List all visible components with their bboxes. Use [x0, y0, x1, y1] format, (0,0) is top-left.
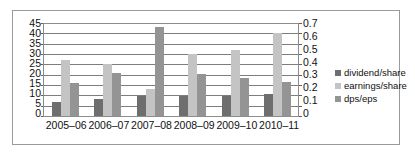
chart-frame: 454035302520151050 0.70.60.50.40.30.20.1… [12, 10, 400, 145]
legend-label: dividend/share [344, 67, 406, 78]
left-axis-tick-labels: 454035302520151050 [17, 19, 41, 117]
x-axis-tick: 2006–07 [88, 119, 125, 131]
axis-tick-mark [299, 33, 302, 34]
bar-earnings-share [188, 54, 197, 116]
bar-earnings-share [146, 89, 155, 116]
right-axis-tick: 0.6 [303, 32, 318, 40]
legend-item[interactable]: dps/eps [335, 93, 407, 104]
bar-dividend-share [222, 96, 231, 116]
left-axis-tick: 45 [29, 19, 41, 27]
left-axis-tick: 35 [29, 39, 41, 47]
x-axis-tick-labels: 2005–062006–072007–082008–092009–102010–… [43, 119, 299, 131]
legend-swatch-icon [335, 83, 341, 89]
plot-canvas [43, 23, 299, 117]
axis-tick-mark [299, 116, 302, 117]
bar-earnings-share [273, 33, 282, 116]
bar-dividend-share [137, 96, 146, 116]
legend-item[interactable]: dividend/share [335, 67, 407, 78]
legend-label: earnings/share [344, 80, 407, 91]
bar-dps-eps [240, 78, 249, 116]
axis-tick-mark [299, 75, 302, 76]
bar-dividend-share [179, 96, 188, 116]
chart-plot-area: 454035302520151050 0.70.60.50.40.30.20.1… [13, 11, 399, 144]
right-axis-tick: 0.5 [303, 45, 318, 53]
left-axis-tick: 25 [29, 59, 41, 67]
bar-group [174, 23, 211, 116]
bar-group [47, 23, 84, 116]
right-axis-tick: 0.1 [303, 96, 318, 104]
chart-legend: dividend/shareearnings/sharedps/eps [335, 67, 407, 106]
x-axis-tick: 2008–09 [174, 119, 211, 131]
bar-dps-eps [112, 73, 121, 116]
bar-groups [44, 23, 299, 116]
bar-earnings-share [61, 60, 70, 116]
right-axis-tick: 0 [303, 109, 309, 117]
bar-group [217, 23, 254, 116]
axis-tick-mark [299, 95, 302, 96]
bar-group [89, 23, 126, 116]
left-axis-tick: 15 [29, 79, 41, 87]
legend-item[interactable]: earnings/share [335, 80, 407, 91]
axis-tick-mark [299, 106, 302, 107]
bar-group [132, 23, 169, 116]
axis-tick-mark [299, 85, 302, 86]
bar-dps-eps [282, 82, 291, 116]
bar-earnings-share [103, 64, 112, 116]
right-axis-tick: 0.2 [303, 83, 318, 91]
bar-group [259, 23, 296, 116]
right-axis-tick-labels: 0.70.60.50.40.30.20.10 [303, 19, 329, 117]
right-axis-tick: 0.3 [303, 70, 318, 78]
bar-dividend-share [52, 102, 61, 116]
legend-swatch-icon [335, 96, 341, 102]
x-axis-tick: 2005–06 [46, 119, 83, 131]
x-axis-tick: 2007–08 [131, 119, 168, 131]
bar-dividend-share [264, 94, 273, 116]
bar-dps-eps [197, 74, 206, 116]
left-axis-tick: 10 [29, 89, 41, 97]
legend-label: dps/eps [344, 93, 377, 104]
left-axis-tick: 20 [29, 69, 41, 77]
axis-tick-mark [299, 54, 302, 55]
axis-tick-mark [299, 23, 302, 24]
bar-dps-eps [155, 27, 164, 116]
x-axis-tick: 2010–11 [259, 119, 296, 131]
axis-tick-mark [299, 44, 302, 45]
x-axis-tick: 2009–10 [216, 119, 253, 131]
axis-tick-mark [41, 116, 44, 117]
right-axis-tick: 0.4 [303, 58, 318, 66]
legend-swatch-icon [335, 70, 341, 76]
bar-earnings-share [231, 50, 240, 116]
bar-dps-eps [70, 83, 79, 116]
gridline [44, 116, 299, 117]
left-axis-tick: 30 [29, 49, 41, 57]
right-axis-tick: 0.7 [303, 19, 318, 27]
axis-tick-mark [299, 64, 302, 65]
bar-dividend-share [94, 99, 103, 116]
left-axis-tick: 40 [29, 29, 41, 37]
